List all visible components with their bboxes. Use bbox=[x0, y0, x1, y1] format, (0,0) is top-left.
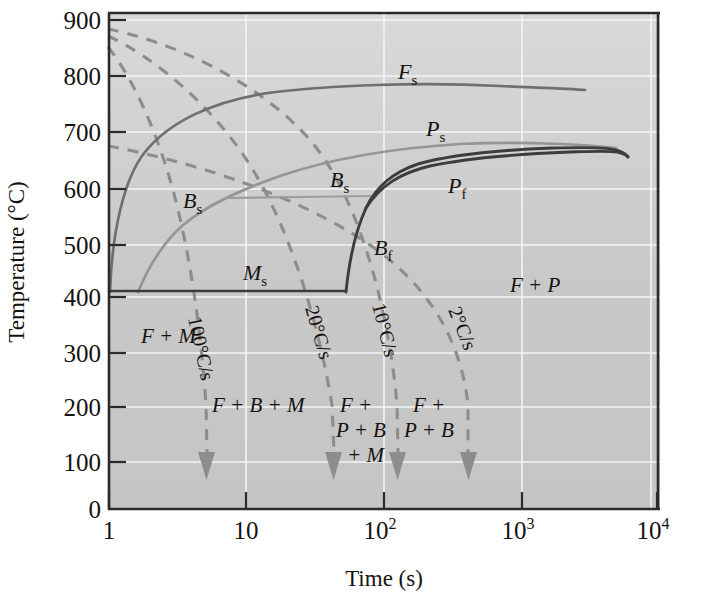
curve-label-bs-left-main: B bbox=[183, 188, 196, 213]
y-tick-label-700: 700 bbox=[64, 119, 102, 146]
curve-label-bs-right-sub: s bbox=[343, 180, 349, 196]
x-axis-title: Time (s) bbox=[345, 566, 423, 591]
y-tick-label-100: 100 bbox=[64, 449, 102, 476]
y-axis-title: Temperature (°C) bbox=[4, 181, 29, 342]
x-tick-label-10: 10 bbox=[234, 517, 259, 544]
y-tick-label-500: 500 bbox=[64, 232, 102, 259]
y-tick-label-600: 600 bbox=[64, 176, 102, 203]
curve-label-bs-left-sub: s bbox=[196, 201, 202, 217]
x-tick-1-mantissa: 1 bbox=[103, 517, 116, 544]
curve-label-ps-sub: s bbox=[439, 129, 445, 145]
y-tick-label-300: 300 bbox=[64, 340, 102, 367]
x-tick-1000-exponent: 3 bbox=[527, 515, 535, 532]
cct-diagram-canvas: 900 800 700 600 500 400 300 200 100 0 1 … bbox=[0, 0, 714, 604]
region-label-fpbm-line2: P + B bbox=[335, 418, 386, 442]
region-label-fpbm-line3: + M bbox=[347, 443, 385, 467]
curve-label-pf-main: P bbox=[447, 173, 461, 198]
y-tick-label-900: 900 bbox=[64, 7, 102, 34]
region-label-f-plus-p: F + P bbox=[509, 273, 560, 297]
cct-diagram-figure: 900 800 700 600 500 400 300 200 100 0 1 … bbox=[0, 0, 714, 604]
x-tick-label-1: 1 bbox=[103, 517, 116, 544]
y-tick-label-0: 0 bbox=[89, 496, 102, 523]
y-tick-label-400: 400 bbox=[64, 284, 102, 311]
region-label-f-plus-b-plus-m: F + B + M bbox=[211, 393, 306, 417]
curve-label-ps-main: P bbox=[425, 116, 439, 141]
region-label-fpbm-line1: F + bbox=[339, 393, 372, 417]
curve-label-fs-sub: s bbox=[411, 72, 417, 88]
curve-label-ms-sub: s bbox=[261, 273, 267, 289]
y-tick-label-200: 200 bbox=[64, 394, 102, 421]
y-tick-label-800: 800 bbox=[64, 63, 102, 90]
x-tick-100-mantissa: 10 bbox=[364, 517, 389, 544]
curve-label-bf-main: B bbox=[374, 235, 387, 260]
x-tick-10-mantissa: 10 bbox=[234, 517, 259, 544]
curve-label-ms-main: M bbox=[242, 260, 263, 285]
region-label-fpb-line2: P + B bbox=[403, 418, 454, 442]
x-tick-10000-mantissa: 10 bbox=[637, 517, 662, 544]
curve-label-bf-sub: f bbox=[387, 248, 392, 264]
x-tick-10000-exponent: 4 bbox=[662, 515, 670, 532]
region-label-fpb-line1: F + bbox=[412, 393, 445, 417]
x-tick-100-exponent: 2 bbox=[389, 515, 397, 532]
x-tick-1000-mantissa: 10 bbox=[502, 517, 527, 544]
curve-label-fs-main: F bbox=[397, 59, 412, 84]
curve-label-pf-sub: f bbox=[461, 186, 466, 202]
curve-label-bs-right-main: B bbox=[330, 167, 343, 192]
